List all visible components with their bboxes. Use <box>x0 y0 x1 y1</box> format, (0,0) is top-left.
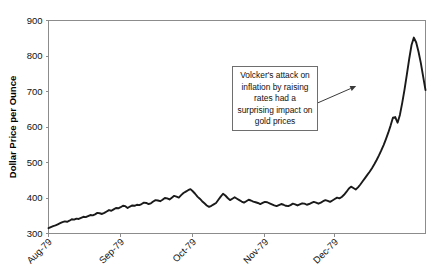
y-tick-label: 300 <box>27 228 43 239</box>
x-tick-label: Aug-79 <box>24 236 53 265</box>
chart-canvas: 300400500600700800900 Aug-79Sep-79Oct-79… <box>0 0 440 280</box>
y-axis: 300400500600700800900 <box>27 15 49 239</box>
y-tick-label: 400 <box>27 192 43 203</box>
y-axis-title: Dollar Price per Ounce <box>7 76 18 178</box>
gold-price-chart: 300400500600700800900 Aug-79Sep-79Oct-79… <box>0 0 440 280</box>
y-tick-label: 700 <box>27 86 43 97</box>
x-tick-label: Oct-79 <box>170 236 198 264</box>
x-tick-label: Nov-79 <box>241 236 270 265</box>
annotation-callout: Volcker's attack on inflation by raising… <box>233 67 318 131</box>
y-tick-label: 500 <box>27 157 43 168</box>
x-tick-label: Sep-79 <box>97 236 126 265</box>
callout-line-2: inflation by raising <box>241 82 308 92</box>
x-axis: Aug-79Sep-79Oct-79Nov-79Dec-79 <box>24 234 340 266</box>
x-tick-label: Dec-79 <box>311 236 340 265</box>
annotation-leader <box>318 86 357 103</box>
callout-line-1: Volcker's attack on <box>240 70 310 80</box>
callout-line-4: surprising impact on <box>238 105 313 115</box>
y-tick-label: 600 <box>27 121 43 132</box>
y-tick-label: 900 <box>27 15 43 26</box>
leader-line <box>318 89 351 104</box>
callout-line-5: gold prices <box>255 116 296 126</box>
y-tick-label: 800 <box>27 50 43 61</box>
callout-line-3: rates had a <box>254 93 296 103</box>
